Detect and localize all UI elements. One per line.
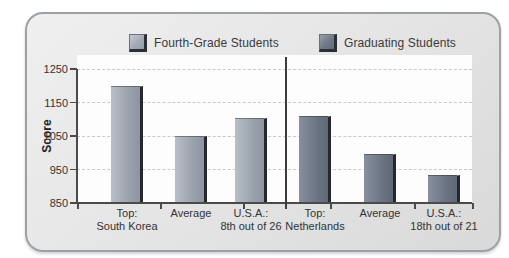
- bar-4: [299, 116, 331, 204]
- chart-panel: Fourth-Grade Students Graduating Student…: [25, 12, 501, 252]
- x-axis-tick: [77, 203, 79, 209]
- x-axis-line: [76, 202, 472, 204]
- bar-3: [235, 118, 267, 204]
- bar-2: [175, 136, 207, 204]
- gridline: [77, 69, 472, 70]
- y-tick-label: 1050: [32, 130, 68, 142]
- group-divider-line: [285, 57, 287, 209]
- y-tick-label: 1250: [32, 63, 68, 75]
- x-category-label: U.S.A.:18th out of 21: [405, 207, 483, 233]
- bar-1: [111, 86, 143, 204]
- y-tick-label: 950: [32, 164, 68, 176]
- y-tick-label: 1150: [32, 97, 68, 109]
- plot-layer: 125011501050950850Top:South KoreaAverage…: [27, 14, 501, 252]
- bar-5: [364, 154, 396, 204]
- y-tick-label: 850: [32, 197, 68, 209]
- y-axis-line: [76, 69, 78, 203]
- bar-6: [428, 175, 460, 204]
